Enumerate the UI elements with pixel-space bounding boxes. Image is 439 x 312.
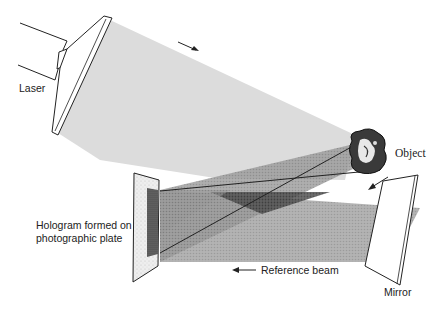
laser-direction-arrow [178,42,199,51]
laser-label: Laser [19,82,45,95]
hologram-diagram [0,0,439,312]
reference-beam-arrow [232,267,256,273]
mirror [365,175,418,285]
reference-beam-label: Reference beam [261,264,339,277]
object-label: Object [395,147,426,160]
photographic-plate [133,173,159,282]
object-figure [350,129,387,174]
hologram-label-line1: Hologram formed on [36,219,132,232]
hologram-label-line2: photographic plate [36,232,122,245]
mirror-label: Mirror [384,286,411,299]
